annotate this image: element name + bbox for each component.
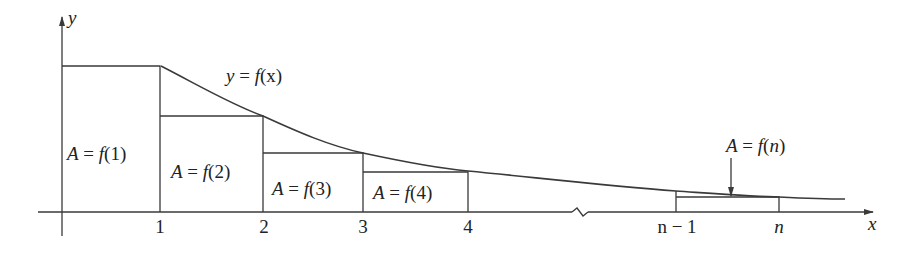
curve-label: y = f(x) (224, 65, 282, 87)
rectangle-1 (62, 66, 160, 212)
tick-label-n-minus-1: n − 1 (657, 216, 696, 237)
x-axis-label: x (867, 213, 877, 234)
integral-test-diagram: y x y = f(x) A = f(1) A = f(2) A = f(3) … (0, 0, 911, 255)
tick-label-n: n (774, 216, 784, 237)
tick-label-1: 1 (155, 216, 165, 237)
y-axis-label: y (66, 7, 77, 28)
tick-label-4: 4 (463, 216, 473, 237)
rectangle-1-label: A = f(1) (65, 143, 126, 165)
axis-break-icon (572, 208, 588, 216)
rectangle-3-label: A = f(3) (270, 178, 331, 200)
rectangle-n-top (676, 197, 779, 212)
rectangle-4-label: A = f(4) (371, 182, 432, 204)
x-axis (38, 208, 873, 216)
rectangle-n-label: A = f(n) (724, 135, 785, 157)
tick-label-3: 3 (358, 216, 368, 237)
tick-label-2: 2 (259, 216, 269, 237)
rectangle-2-label: A = f(2) (169, 161, 230, 183)
